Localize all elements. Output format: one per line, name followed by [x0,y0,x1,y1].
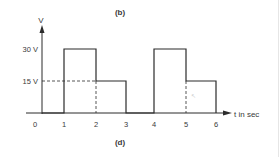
x-tick-2: 2 [94,120,98,129]
x-tick-3: 3 [124,120,128,129]
x-tick-1: 1 [62,120,66,129]
right-edge [278,0,279,157]
y-tick-30v: 30 V [23,45,38,54]
y-axis-label: V [38,16,44,25]
x-axis-arrow-icon [223,111,232,116]
x-tick-origin: 0 [33,120,37,129]
x-axis-label: t in sec [234,110,259,119]
stray-mark: ↖ [191,93,196,99]
caption-top: (b) [115,8,126,17]
x-tick-4: 4 [152,120,156,129]
x-tick-6: 6 [214,120,218,129]
y-tick-15v: 15 V [23,77,38,86]
waveform-diagram: (b) (d) V t in sec 30 V 15 V 0 1 2 3 4 5… [0,0,279,157]
y-axis-arrow-icon [40,25,45,33]
x-tick-5: 5 [184,120,188,129]
caption-bottom: (d) [115,138,126,147]
